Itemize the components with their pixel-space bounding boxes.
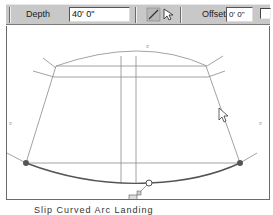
arc-landing-drawing: ¤ ¤ ¤ ¤ [7, 26, 269, 199]
toolbar-separator [9, 7, 11, 23]
offset-label: Offset: [202, 9, 228, 19]
caption: Slip Curved Arc Landing [34, 205, 154, 215]
left-handle[interactable] [23, 160, 29, 166]
offset-checkbox[interactable] [260, 8, 271, 19]
pencil-icon [146, 7, 161, 22]
right-marker: ¤ [259, 120, 262, 126]
toolbar: Depth 40' 0" Offset: 0' 0" [6, 4, 270, 25]
mouse-cursor-icon [219, 108, 228, 122]
select-tool-button[interactable] [161, 7, 176, 22]
offset-field[interactable]: 0' 0" [226, 7, 253, 22]
toolbar-separator [180, 7, 182, 23]
arc-node-icon [129, 195, 137, 199]
bottom-marker: ¤ [156, 198, 159, 199]
left-marker: ¤ [9, 120, 12, 126]
radius-handle[interactable] [137, 191, 141, 195]
drawing-canvas[interactable]: ¤ ¤ ¤ ¤ [6, 26, 270, 200]
pencil-tool-button[interactable] [146, 7, 161, 22]
top-marker: ¤ [146, 43, 149, 49]
arrow-cursor-icon [161, 7, 176, 22]
depth-label: Depth [26, 9, 50, 19]
toolbar-separator [135, 7, 137, 23]
right-handle[interactable] [237, 160, 243, 166]
depth-field[interactable]: 40' 0" [69, 7, 130, 22]
